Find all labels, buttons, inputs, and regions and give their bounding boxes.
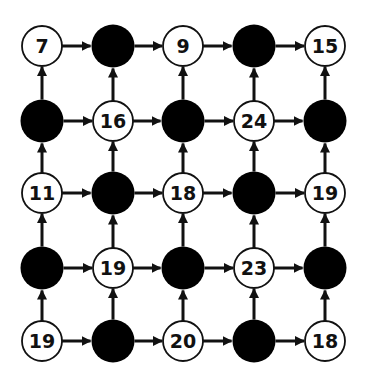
labeled-node: 23 [234,248,274,288]
node-label: 23 [241,257,267,279]
labeled-node: 15 [305,26,345,66]
labeled-node: 24 [234,101,274,141]
grid-diagram: 791516241118191923192018 [0,0,367,388]
filled-node [304,100,347,143]
node-label: 19 [100,257,126,279]
labeled-node: 18 [305,321,345,361]
filled-circle [233,320,276,363]
filled-node [233,320,276,363]
filled-circle [233,172,276,215]
filled-node [21,100,64,143]
filled-node [233,172,276,215]
labeled-node: 19 [93,248,133,288]
labeled-node: 9 [163,26,203,66]
node-label: 18 [170,182,196,204]
filled-node [21,247,64,290]
filled-node [92,25,135,68]
labeled-node: 7 [22,26,62,66]
node-label: 9 [176,35,189,57]
filled-circle [92,25,135,68]
node-label: 19 [312,182,338,204]
node-label: 15 [312,35,338,57]
node-label: 11 [29,182,55,204]
labeled-node: 19 [22,321,62,361]
labeled-node: 19 [305,173,345,213]
filled-circle [21,247,64,290]
node-label: 18 [312,330,338,352]
filled-node [92,320,135,363]
filled-circle [92,172,135,215]
filled-circle [162,100,205,143]
labeled-node: 16 [93,101,133,141]
filled-circle [304,100,347,143]
filled-node [304,247,347,290]
filled-circle [233,25,276,68]
filled-circle [21,100,64,143]
node-label: 7 [35,35,48,57]
node-label: 24 [241,110,267,132]
filled-circle [304,247,347,290]
node-label: 19 [29,330,55,352]
labeled-node: 11 [22,173,62,213]
filled-node [162,247,205,290]
labeled-node: 20 [163,321,203,361]
labeled-node: 18 [163,173,203,213]
filled-node [162,100,205,143]
filled-circle [162,247,205,290]
node-label: 20 [170,330,196,352]
filled-circle [92,320,135,363]
filled-node [233,25,276,68]
node-label: 16 [100,110,126,132]
filled-node [92,172,135,215]
